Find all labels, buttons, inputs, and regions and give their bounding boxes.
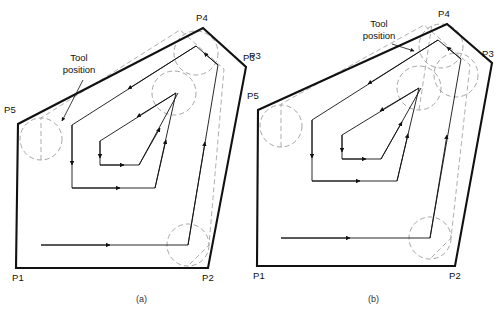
vertex-label-p5-a: P5 (4, 104, 16, 115)
tool-circle-p4-a (174, 31, 218, 75)
tool-position-annotation-b: Tool position (350, 18, 408, 41)
tool-path-diagram-svg (0, 0, 502, 313)
caption-a: (a) (136, 294, 147, 304)
tool-path-b (281, 40, 461, 238)
vertex-label-p5-b: P5 (247, 90, 259, 101)
part-boundary-b (257, 24, 492, 266)
offset-outline-b (281, 24, 470, 259)
vertex-label-p3-b: P3 (482, 48, 494, 59)
vertex-label-p1-b: P1 (253, 270, 265, 281)
vertex-label-p3-a-right: P3 (249, 50, 261, 61)
vertex-label-p1-a: P1 (12, 272, 24, 283)
tool-circle-p4-b (419, 24, 463, 68)
vertex-label-p2-b: P2 (449, 270, 461, 281)
tool-circle-inner-a (152, 71, 196, 115)
figure-container: Tool position P5 P4 P3 P1 P2 (a) Tool po… (0, 0, 502, 313)
caption-b: (b) (368, 294, 379, 304)
vertex-label-p4-b: P4 (438, 8, 450, 19)
tool-position-annotation-a: Tool position (50, 52, 108, 75)
vertex-label-p2-a: P2 (202, 272, 214, 283)
diagram-b-group (257, 24, 492, 266)
tool-path-a (41, 46, 218, 245)
vertex-label-p4-a: P4 (196, 12, 208, 23)
